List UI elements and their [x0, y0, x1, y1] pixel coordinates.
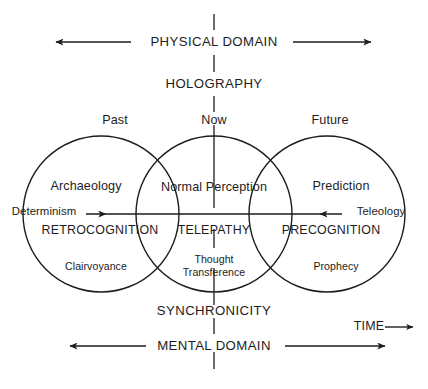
telepathy-label: TELEPATHY	[178, 224, 251, 238]
retrocognition-label: RETROCOGNITION	[41, 224, 158, 238]
archaeology-label: Archaeology	[50, 179, 121, 193]
marker-past-label: Past	[102, 113, 128, 127]
time-label: TIME	[354, 320, 385, 334]
precognition-label: PRECOGNITION	[282, 224, 381, 238]
determinism-label: Determinism	[12, 205, 76, 218]
teleology-label: Teleology	[357, 205, 406, 218]
prediction-label: Prediction	[312, 179, 369, 193]
prophecy-label: Prophecy	[313, 261, 358, 273]
venn-time-domain-diagram: PHYSICAL DOMAIN HOLOGRAPHY Past Now Futu…	[0, 0, 428, 389]
thought-transference-line2: Transference	[183, 265, 246, 277]
thought-transference-line1: Thought	[194, 253, 233, 265]
physical-domain-title: PHYSICAL DOMAIN	[150, 35, 277, 50]
mental-domain-title: MENTAL DOMAIN	[157, 339, 271, 354]
marker-now-label: Now	[201, 113, 227, 127]
synchronicity-label: SYNCHRONICITY	[157, 304, 271, 319]
holography-label: HOLOGRAPHY	[165, 77, 262, 92]
normal-perception-label: Normal Perception	[161, 180, 267, 194]
thought-transference-label: ThoughtTransference	[183, 253, 246, 278]
marker-future-label: Future	[312, 113, 349, 127]
clairvoyance-label: Clairvoyance	[65, 261, 127, 273]
